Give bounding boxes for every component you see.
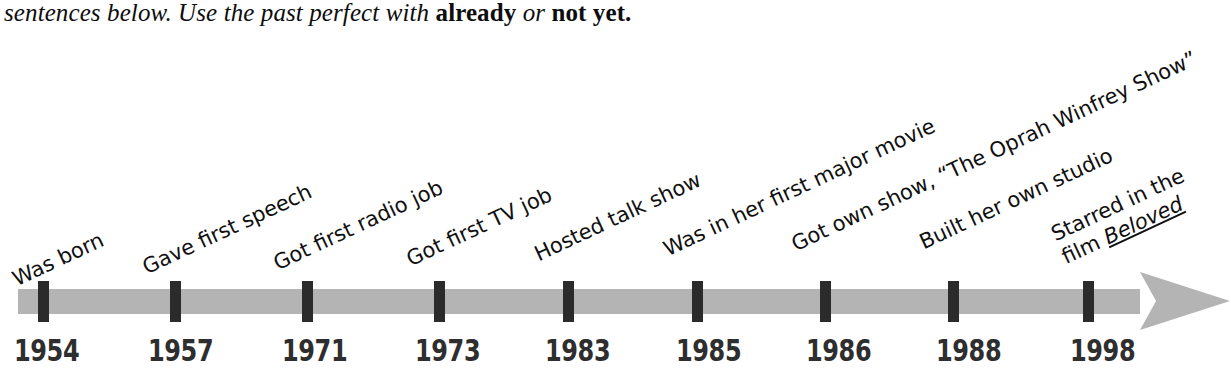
timeline-year-1988: 1988: [936, 334, 1001, 368]
timeline-tick-1985: [692, 281, 703, 322]
timeline-tick-1954: [38, 281, 49, 322]
timeline-year-1998: 1998: [1070, 334, 1135, 368]
timeline-year-1954: 1954: [14, 334, 79, 368]
timeline-tick-1998: [1083, 281, 1094, 322]
timeline-tick-1957: [170, 281, 181, 322]
timeline-year-1957: 1957: [148, 334, 213, 368]
timeline-figure: Was bornGave first speechGot first radio…: [0, 0, 1231, 386]
timeline-year-1973: 1973: [415, 334, 480, 368]
timeline-tick-1983: [563, 281, 574, 322]
timeline-tick-1971: [302, 281, 313, 322]
timeline-tick-1973: [434, 281, 445, 322]
timeline-year-1986: 1986: [806, 334, 871, 368]
timeline-tick-1988: [948, 281, 959, 322]
timeline-year-1971: 1971: [282, 334, 347, 368]
timeline-year-1983: 1983: [545, 334, 610, 368]
timeline-year-1985: 1985: [676, 334, 741, 368]
timeline-tick-1986: [820, 281, 831, 322]
timeline-axis-bar: [18, 289, 1181, 314]
timeline-arrowhead-notch: [1140, 272, 1156, 330]
timeline-event-label-1954: Was born: [9, 228, 108, 292]
